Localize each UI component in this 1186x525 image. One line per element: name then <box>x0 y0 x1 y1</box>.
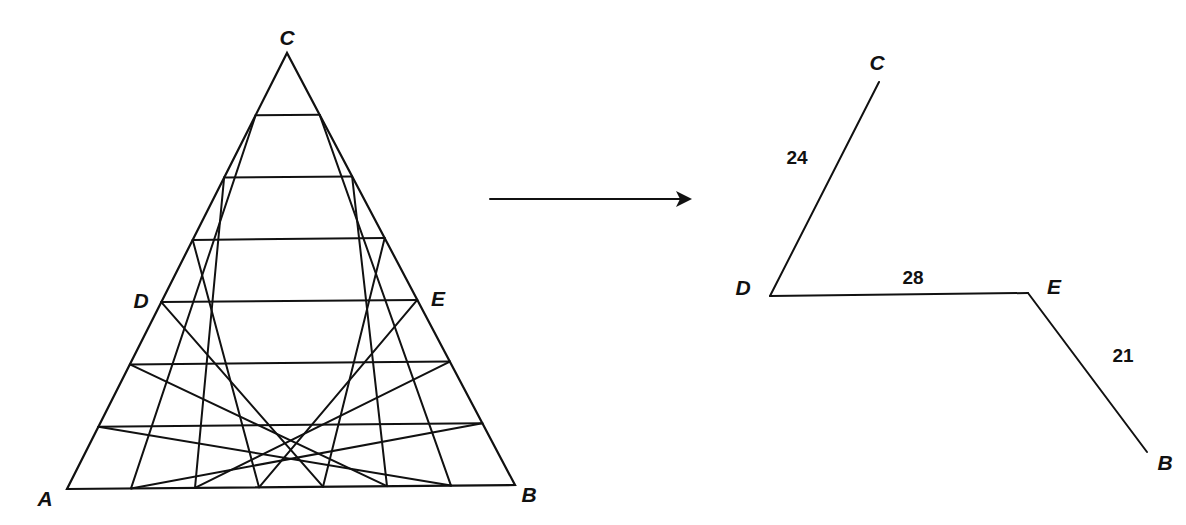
length-label-dc: 24 <box>786 147 808 168</box>
grid-line-parallel-ac <box>259 300 417 487</box>
grid-line-parallel-ab <box>130 362 450 365</box>
grid-lines <box>98 115 482 489</box>
triangular-grid-figure: A B C D E <box>36 26 536 510</box>
grid-line-parallel-ab <box>193 238 385 240</box>
segment-dc <box>770 82 879 296</box>
path-figure: C D E B 24 28 21 <box>735 51 1172 474</box>
grid-line-parallel-bc <box>98 427 451 486</box>
grid-line-parallel-ab <box>256 115 320 116</box>
length-label-eb: 21 <box>1112 345 1134 366</box>
grid-line-parallel-ab <box>224 176 352 177</box>
arrow-right-icon <box>490 191 692 207</box>
vertex-label-b: B <box>521 483 536 506</box>
vertex-label-c: C <box>279 26 295 49</box>
vertex-label-a: A <box>36 487 52 510</box>
path-label-d: D <box>735 276 750 299</box>
path-label-c: C <box>869 51 885 74</box>
length-label-de: 28 <box>902 267 923 288</box>
segment-eb <box>1028 293 1147 452</box>
point-label-e: E <box>431 287 446 310</box>
point-label-d: D <box>133 289 148 312</box>
grid-line-parallel-ab <box>161 300 417 302</box>
diagram-canvas: A B C D E C D E B 24 28 21 <box>0 0 1186 525</box>
segment-de <box>770 293 1028 296</box>
path-label-e: E <box>1047 275 1062 298</box>
path-label-b: B <box>1157 451 1172 474</box>
grid-line-parallel-bc <box>161 302 323 487</box>
grid-line-parallel-ab <box>98 423 482 426</box>
